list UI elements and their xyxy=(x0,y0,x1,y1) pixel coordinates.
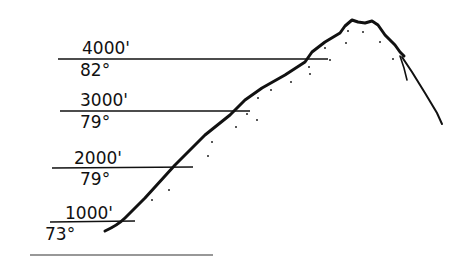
elevation-label-1000: 1000' xyxy=(65,205,113,222)
temperature-label-1000: 73° xyxy=(45,226,75,243)
shading-dots xyxy=(151,30,394,201)
elevation-label-4000: 4000' xyxy=(82,40,130,57)
temperature-label-4000: 82° xyxy=(80,62,110,79)
temperature-label-2000: 79° xyxy=(80,171,110,188)
mountain-right-slope xyxy=(402,57,442,124)
elevation-label-3000: 3000' xyxy=(80,92,128,109)
elevation-label-2000: 2000' xyxy=(74,150,122,167)
mountain-outline xyxy=(105,20,404,231)
temperature-label-3000: 79° xyxy=(80,114,110,131)
